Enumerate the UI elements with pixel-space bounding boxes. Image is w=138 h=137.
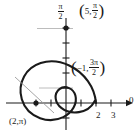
polar-axis-label: 0	[129, 96, 134, 105]
annotation-point-top-theta: π 2	[92, 2, 98, 21]
y-axis-label-numerator: π	[58, 3, 64, 11]
marked-points	[33, 25, 68, 105]
annotation-point-top: (5, π 2 )	[79, 2, 104, 21]
annotation-point-inner-theta-numerator: 3π	[89, 59, 99, 67]
x-tick-label-2: 2	[96, 110, 101, 120]
polar-graph-figure: π 2 0 2 3 (5, π 2 ) (−1, 3π 2 ) (2,π)	[0, 0, 138, 137]
y-axis-label-fraction: π 2	[58, 3, 64, 22]
annotation-point-left: (2,π)	[9, 112, 26, 128]
paren-close: )	[100, 61, 106, 75]
annotation-point-inner-r: −1	[77, 64, 87, 73]
x-tick-label-3: 3	[111, 110, 116, 120]
annotation-point-inner-theta-denominator: 2	[89, 67, 99, 77]
annotation-point-inner: (−1, 3π 2 )	[71, 59, 105, 78]
paren-close: )	[98, 4, 104, 18]
annotation-point-top-theta-numerator: π	[92, 2, 98, 10]
y-axis-label-denominator: 2	[58, 11, 64, 21]
annotation-point-top-theta-denominator: 2	[92, 10, 98, 20]
point-marker-left	[33, 100, 38, 105]
point-marker-top	[63, 25, 68, 30]
paren-close: )	[23, 117, 26, 126]
y-axis-label: π 2	[57, 3, 64, 22]
annotation-point-inner-theta: 3π 2	[89, 59, 99, 78]
